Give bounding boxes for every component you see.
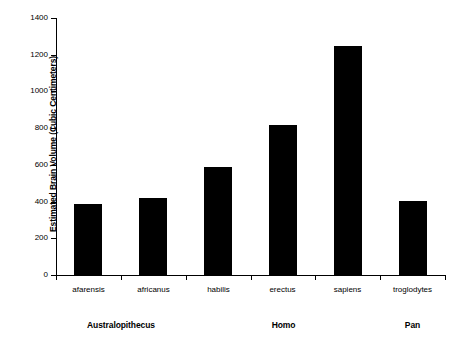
- y-axis-tick-label: 600: [10, 161, 48, 169]
- category-label-afarensis: afarensis: [56, 285, 121, 294]
- y-axis-tick-mark: [51, 128, 57, 129]
- bar-habilis: [204, 167, 232, 275]
- x-axis-tick-mark: [380, 275, 381, 280]
- y-axis-tick-label: 1000: [10, 87, 48, 95]
- bar-troglodytes: [399, 201, 427, 275]
- y-axis-tick-label: 800: [10, 124, 48, 132]
- x-axis-tick-mark: [251, 275, 252, 280]
- bar-erectus: [269, 125, 297, 275]
- bar-sapiens: [334, 46, 362, 275]
- bar-africanus: [139, 198, 167, 275]
- category-label-troglodytes: troglodytes: [380, 285, 445, 294]
- group-label-australopithecus: Australopithecus: [56, 320, 186, 330]
- y-axis-tick-mark: [51, 238, 57, 239]
- y-axis-tick-label: 200: [10, 234, 48, 242]
- y-axis-tick-label: 0: [10, 271, 48, 279]
- y-axis-tick-mark: [51, 202, 57, 203]
- y-axis-tick-mark: [51, 18, 57, 19]
- group-label-homo: Homo: [186, 320, 381, 330]
- category-label-sapiens: sapiens: [315, 285, 380, 294]
- brain-volume-bar-chart: Estimated Brain Volume (Cubic Centimeter…: [0, 0, 460, 338]
- category-label-habilis: habilis: [186, 285, 251, 294]
- y-axis-tick-label: 1200: [10, 51, 48, 59]
- x-axis-tick-mark: [186, 275, 187, 280]
- y-axis-tick-mark: [51, 55, 57, 56]
- group-label-pan: Pan: [380, 320, 445, 330]
- y-axis-tick-mark: [51, 165, 57, 166]
- category-label-erectus: erectus: [250, 285, 315, 294]
- category-label-africanus: africanus: [121, 285, 186, 294]
- bar-afarensis: [74, 204, 102, 275]
- x-axis-tick-mark: [315, 275, 316, 280]
- x-axis-tick-mark: [445, 275, 446, 280]
- y-axis-tick-mark: [51, 91, 57, 92]
- x-axis-tick-mark: [121, 275, 122, 280]
- y-axis-tick-label: 400: [10, 198, 48, 206]
- y-axis-tick-label: 1400: [10, 14, 48, 22]
- x-axis-tick-mark: [56, 275, 57, 280]
